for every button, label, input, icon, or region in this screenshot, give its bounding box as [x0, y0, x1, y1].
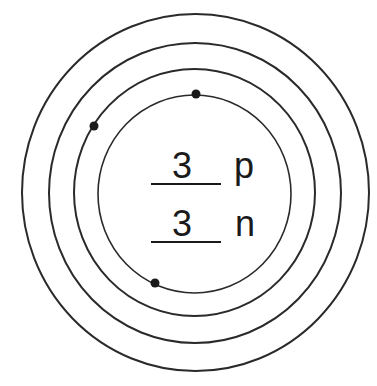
electron-dot: [90, 122, 99, 131]
neutron-count: 3: [172, 203, 192, 244]
proton-count: 3: [172, 145, 192, 186]
nucleus: 3 p 3 n: [151, 145, 255, 244]
electron-shells: [22, 14, 369, 371]
electrons: [90, 90, 201, 288]
electron-dot: [192, 90, 201, 99]
proton-symbol: p: [234, 145, 254, 186]
shell-2-orbit: [74, 69, 315, 316]
shell-1-orbit: [98, 95, 291, 293]
shell-3-orbit: [49, 43, 341, 343]
neutron-symbol: n: [235, 203, 255, 244]
bohr-atom-diagram: 3 p 3 n: [0, 0, 377, 386]
electron-dot: [151, 279, 160, 288]
